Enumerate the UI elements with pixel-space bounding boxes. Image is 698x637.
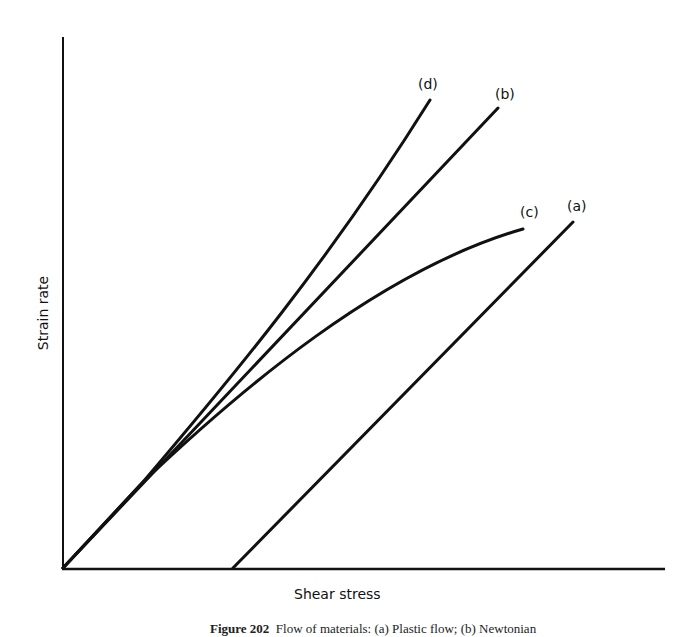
label-d: (d) <box>418 76 438 92</box>
caption-text: Flow of materials: (a) Plastic flow; (b)… <box>276 621 536 636</box>
caption-number: Figure 202 <box>210 621 269 636</box>
label-b: (b) <box>495 86 515 102</box>
x-axis-label: Shear stress <box>294 586 381 602</box>
figure-caption: Figure 202 Flow of materials: (a) Plasti… <box>210 621 536 637</box>
label-a: (a) <box>567 198 587 214</box>
curve-d <box>63 100 430 568</box>
y-axis-label: Strain rate <box>35 273 51 353</box>
curve-a-plastic <box>233 222 573 568</box>
label-c: (c) <box>520 204 539 220</box>
curve-c <box>63 229 523 568</box>
